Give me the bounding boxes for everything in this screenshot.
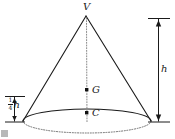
base-center-label-c: C	[92, 108, 100, 118]
cone-right-slant-edge	[86, 16, 151, 121]
centroid-label-g: G	[92, 85, 100, 95]
height-dimension-arrow-up	[156, 20, 161, 27]
height-label-h: h	[161, 64, 167, 74]
cone-left-slant-edge	[23, 16, 86, 121]
cone-central-axis-dotted	[87, 18, 88, 123]
base-ellipse-back-dotted	[23, 121, 151, 133]
base-center-point-marker	[85, 111, 88, 114]
quarter-height-symbol: h	[14, 99, 20, 110]
quarter-fraction: 1 4	[8, 97, 13, 112]
cone-diagram-figure: V G C h 1 4 h	[0, 0, 175, 139]
quarter-fraction-numerator: 1	[9, 97, 13, 103]
quarter-height-label: 1 4 h	[8, 97, 20, 112]
height-dimension-arrow-down	[156, 115, 161, 122]
centroid-point-marker	[85, 88, 88, 91]
apex-label-v: V	[83, 2, 90, 12]
quarter-fraction-denominator: 4	[9, 105, 13, 111]
quarter-height-dimension-arrow-down	[12, 116, 17, 121]
corner-artifact-mark	[1, 130, 8, 137]
cone-diagram-canvas	[0, 0, 175, 139]
